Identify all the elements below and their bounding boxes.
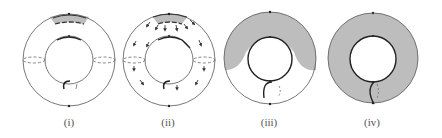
panel-i-annulus <box>23 13 115 107</box>
panel-ii-annulus <box>123 13 215 107</box>
panel-label-i: (i) <box>64 116 74 128</box>
panel-label-iv: (iv) <box>364 116 380 128</box>
panel-iv-annulus <box>328 12 418 104</box>
panel-label-iii: (iii) <box>261 116 278 128</box>
panel-label-ii: (ii) <box>161 116 174 128</box>
panel-iii-annulus <box>224 11 316 105</box>
